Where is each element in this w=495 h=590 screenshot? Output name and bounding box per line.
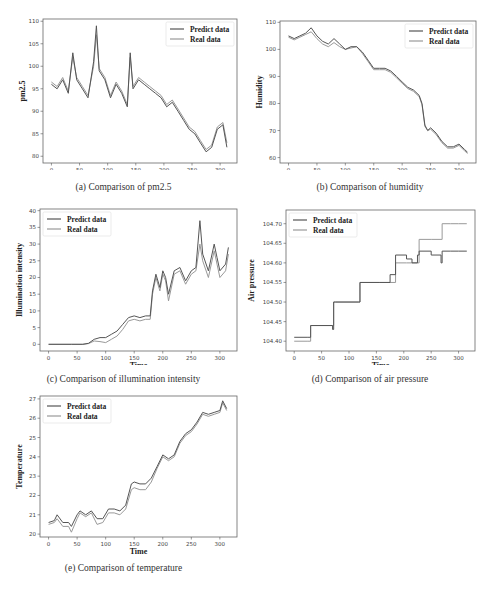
y-tick-label: 25 <box>29 435 36 441</box>
y-tick-label: 35 <box>29 224 36 230</box>
x-tick-label: 0 <box>47 355 51 361</box>
predict-data-line <box>49 221 229 345</box>
x-tick-label: 50 <box>74 355 81 361</box>
real-legend-label: Real data <box>67 225 98 234</box>
x-tick-label: 200 <box>159 167 170 170</box>
x-tick-label: 250 <box>426 355 437 361</box>
predict-legend-label: Predict data <box>190 25 229 34</box>
y-tick-label: 104.60 <box>263 260 283 266</box>
y-tick-label: 85 <box>32 131 39 137</box>
x-tick-label: 100 <box>100 541 111 547</box>
y-tick-label: 25 <box>29 258 36 264</box>
real-legend-label: Real data <box>429 37 460 46</box>
y-tick-label: 100 <box>29 63 40 69</box>
real-legend-label: Real data <box>67 412 98 421</box>
x-tick-label: 200 <box>397 167 408 170</box>
y-tick-label: 90 <box>269 73 276 79</box>
x-tick-label: 300 <box>453 355 464 361</box>
y-tick-label: 100 <box>266 46 277 52</box>
x-axis-label: Time <box>372 361 390 365</box>
x-tick-label: 250 <box>425 167 436 170</box>
y-tick-label: 104.70 <box>263 221 283 227</box>
x-tick-label: 150 <box>368 167 379 170</box>
x-tick-label: 200 <box>158 355 169 361</box>
legend: Predict dataReal data <box>405 24 473 48</box>
x-tick-label: 250 <box>187 167 198 170</box>
x-tick-label: 100 <box>102 167 113 170</box>
y-tick-label: 10 <box>29 308 36 314</box>
x-axis-label: Time <box>130 547 148 556</box>
y-tick-label: 110 <box>29 18 40 24</box>
chart-air-pressure: 050100150200250300104.40104.45104.50104.… <box>245 195 495 365</box>
legend: Predict dataReal data <box>43 399 111 423</box>
caption-humidity: (b) Comparison of humidity <box>245 182 495 192</box>
x-tick-label: 200 <box>399 355 410 361</box>
x-tick-label: 0 <box>47 541 51 547</box>
legend: Predict dataReal data <box>43 212 111 236</box>
caption-pm25: (a) Comparison of pm2.5 <box>0 182 247 192</box>
y-tick-label: 70 <box>269 128 276 134</box>
real-data-line <box>49 244 229 344</box>
x-tick-label: 250 <box>186 541 197 547</box>
x-tick-label: 300 <box>215 355 226 361</box>
y-tick-label: 104.55 <box>263 279 283 285</box>
x-tick-label: 100 <box>100 355 111 361</box>
y-axis-label: Humidity <box>255 76 264 109</box>
y-tick-label: 60 <box>269 155 276 161</box>
chart-pm25: 05010015020025030080859095100105110Timep… <box>0 0 247 170</box>
real-legend-label: Real data <box>190 35 221 44</box>
y-tick-label: 5 <box>33 325 37 331</box>
real-data-line <box>289 32 468 154</box>
x-tick-label: 50 <box>318 355 325 361</box>
caption-illumination: (c) Comparison of illumination intensity <box>0 374 247 384</box>
y-tick-label: 20 <box>29 274 36 280</box>
chart-panel-pm25: 05010015020025030080859095100105110Timep… <box>0 0 247 195</box>
y-tick-label: 90 <box>32 108 39 114</box>
y-tick-label: 80 <box>269 100 276 106</box>
caption-air-pressure: (d) Comparison of air pressure <box>245 374 495 384</box>
x-tick-label: 300 <box>215 541 226 547</box>
x-tick-label: 100 <box>340 167 351 170</box>
y-tick-label: 30 <box>29 241 36 247</box>
y-tick-label: 21 <box>29 512 36 518</box>
x-tick-label: 0 <box>292 355 296 361</box>
x-tick-label: 50 <box>76 167 83 170</box>
y-tick-label: 105 <box>29 41 40 47</box>
x-tick-label: 200 <box>158 541 169 547</box>
predict-legend-label: Predict data <box>313 216 352 225</box>
predict-legend-label: Predict data <box>67 215 106 224</box>
legend: Predict dataReal data <box>166 22 234 46</box>
y-axis-label: Illumination intensity <box>15 243 24 317</box>
predict-legend-label: Predict data <box>429 27 468 36</box>
y-tick-label: 104.65 <box>263 240 283 246</box>
y-tick-label: 22 <box>29 492 36 498</box>
real-data-line <box>51 35 227 150</box>
y-tick-label: 27 <box>29 396 36 402</box>
y-tick-label: 0 <box>33 341 37 347</box>
chart-illumination: 0501001502002503000510152025303540TimeIl… <box>0 195 247 365</box>
chart-panel-air-pressure: 050100150200250300104.40104.45104.50104.… <box>245 195 495 390</box>
y-tick-label: 104.45 <box>263 319 283 325</box>
y-tick-label: 110 <box>266 19 277 25</box>
predict-data-line <box>294 251 467 337</box>
caption-temperature: (e) Comparison of temperature <box>0 563 247 573</box>
chart-panel-humidity: 05010015020025030060708090100110TimeHumi… <box>245 0 495 195</box>
x-tick-label: 300 <box>454 167 465 170</box>
x-tick-label: 0 <box>50 167 54 170</box>
chart-panel-temperature: 0501001502002503002021222324252627TimeTe… <box>0 390 247 590</box>
x-tick-label: 100 <box>344 355 355 361</box>
y-tick-label: 80 <box>32 153 39 159</box>
x-tick-label: 50 <box>74 541 81 547</box>
predict-legend-label: Predict data <box>67 402 106 411</box>
y-axis-label: pm2.5 <box>18 80 27 101</box>
y-tick-label: 26 <box>29 415 36 421</box>
chart-temperature: 0501001502002503002021222324252627TimeTe… <box>0 390 247 560</box>
legend: Predict dataReal data <box>289 213 357 237</box>
x-tick-label: 300 <box>215 167 226 170</box>
y-tick-label: 20 <box>29 531 36 537</box>
y-axis-label: Temperature <box>15 444 24 489</box>
y-tick-label: 24 <box>29 454 36 460</box>
real-legend-label: Real data <box>313 226 344 235</box>
x-tick-label: 50 <box>313 167 320 170</box>
x-tick-label: 250 <box>186 355 197 361</box>
